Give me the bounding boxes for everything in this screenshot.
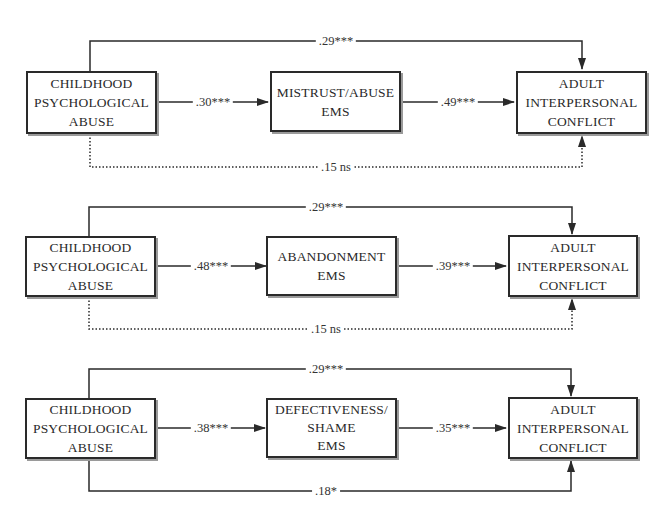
predictor-line: PSYCHOLOGICAL [33,419,148,438]
path-b-label-2: .39*** [433,259,473,273]
mediator-box-2: ABANDONMENT EMS [266,236,397,296]
predictor-line: PSYCHOLOGICAL [34,93,149,112]
predictor-line: ABUSE [69,112,114,131]
total-effect-label-2: .29*** [306,200,346,214]
predictor-line: ABUSE [68,276,113,295]
direct-effect-label-3: .18* [312,484,340,498]
mediator-box-1: MISTRUST/ABUSE EMS [270,71,401,132]
total-effect-label-3: .29*** [306,362,346,376]
mediator-line: DEFECTIVENESS/ [275,401,388,419]
predictor-box-1: CHILDHOOD PSYCHOLOGICAL ABUSE [26,71,157,134]
outcome-line: INTERPERSONAL [525,93,637,112]
predictor-box-3: CHILDHOOD PSYCHOLOGICAL ABUSE [25,398,156,459]
predictor-line: PSYCHOLOGICAL [33,257,148,276]
mediator-line: EMS [321,102,349,121]
predictor-line: CHILDHOOD [50,74,132,93]
outcome-line: CONFLICT [548,112,616,131]
direct-effect-label-2: .15 ns [308,322,344,336]
outcome-line: ADULT [550,400,596,419]
path-b-label-1: .49*** [438,95,478,109]
outcome-line: INTERPERSONAL [517,257,629,276]
total-effect-label-1: .29*** [316,34,356,48]
predictor-line: CHILDHOOD [49,238,131,257]
outcome-line: CONFLICT [539,438,607,457]
outcome-line: CONFLICT [539,276,607,295]
outcome-box-2: ADULT INTERPERSONAL CONFLICT [508,235,638,297]
outcome-line: ADULT [559,74,605,93]
predictor-line: ABUSE [68,438,113,457]
outcome-line: INTERPERSONAL [517,419,629,438]
mediator-line: EMS [317,437,345,455]
outcome-box-3: ADULT INTERPERSONAL CONFLICT [508,397,638,459]
path-a-label-1: .30*** [193,95,233,109]
mediator-line: SHAME [307,419,355,437]
path-a-label-3: .38*** [191,421,231,435]
path-b-label-3: .35*** [433,421,473,435]
mediator-line: MISTRUST/ABUSE [277,83,395,102]
predictor-box-2: CHILDHOOD PSYCHOLOGICAL ABUSE [25,236,156,297]
outcome-box-1: ADULT INTERPERSONAL CONFLICT [516,71,647,134]
direct-effect-label-1: .15 ns [318,160,354,174]
mediator-line: ABANDONMENT [278,247,386,266]
outcome-line: ADULT [550,238,596,257]
predictor-line: CHILDHOOD [49,400,131,419]
path-a-label-2: .48*** [191,259,231,273]
mediator-line: EMS [317,266,345,285]
mediator-box-3: DEFECTIVENESS/ SHAME EMS [266,398,397,458]
